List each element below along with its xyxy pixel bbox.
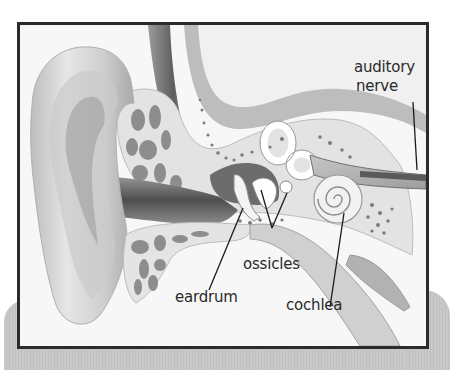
label-ossicles: ossicles [243, 256, 300, 273]
label-auditory-nerve-line2: nerve [356, 78, 398, 95]
label-cochlea: cochlea [286, 297, 342, 314]
label-auditory-nerve-line1: auditory [354, 59, 415, 76]
label-eardrum: eardrum [175, 289, 238, 306]
